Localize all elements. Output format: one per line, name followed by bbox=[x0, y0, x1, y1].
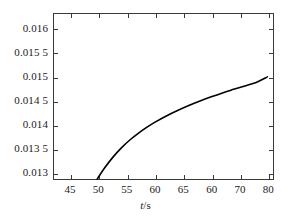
x-tick-label: 60 bbox=[150, 184, 161, 195]
x-tick-label: 80 bbox=[263, 184, 274, 195]
x-tick-label: 45 bbox=[65, 184, 76, 195]
y-tick-label: 0.016 bbox=[23, 23, 48, 34]
y-tick-label: 0.014 bbox=[23, 119, 48, 130]
x-tick-label: 55 bbox=[121, 184, 132, 195]
y-tick-label: 0.013 bbox=[23, 167, 48, 178]
x-axis-title-unit: /s bbox=[143, 199, 150, 211]
x-axis-title: t/s bbox=[0, 199, 291, 211]
x-tick-label: 65 bbox=[178, 184, 189, 195]
x-tick-label: 60 bbox=[206, 184, 217, 195]
y-tick-label: 0.015 bbox=[23, 71, 48, 82]
curve-path bbox=[97, 77, 267, 179]
y-tick-label: 0.014 5 bbox=[14, 95, 48, 106]
y-tick-label: 0.013 5 bbox=[14, 143, 48, 154]
chart-figure: 0.0130.013 50.0140.014 50.0150.015 50.01… bbox=[0, 0, 291, 220]
data-curve bbox=[54, 14, 273, 179]
plot-area bbox=[53, 13, 274, 180]
y-tick-label: 0.015 5 bbox=[14, 47, 48, 58]
x-tick-label: 70 bbox=[235, 184, 246, 195]
x-tick-label: 50 bbox=[93, 184, 104, 195]
